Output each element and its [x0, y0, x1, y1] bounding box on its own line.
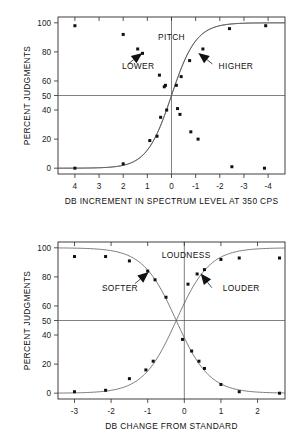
annotation-label-right: LOUDER: [223, 283, 260, 293]
caption-strip: [0, 440, 301, 448]
x-tick-label: 0: [169, 182, 174, 191]
figure-container: 0204050608010043210-1-2-3-4DB INCREMENT …: [0, 0, 301, 448]
data-point-higher: [159, 116, 162, 119]
x-axis-title: DB INCREMENT IN SPECTRUM LEVEL AT 350 CP…: [65, 196, 279, 206]
data-point-higher: [263, 167, 266, 170]
data-point-lower: [158, 74, 161, 77]
y-tick-label: 80: [42, 273, 52, 282]
x-tick-label: 1: [219, 407, 224, 416]
data-point-softer: [278, 392, 281, 395]
arrow-left: [137, 272, 148, 283]
x-tick-label: 1: [145, 182, 150, 191]
data-point-softer: [73, 255, 76, 258]
data-point-lower: [175, 84, 178, 87]
loudness-chart-svg: 02040506080100-3-2-1012DB CHANGE FROM ST…: [0, 227, 301, 440]
annotation-label-left: LOWER: [122, 61, 154, 71]
data-point-higher: [73, 167, 76, 170]
pitch-chart-svg: 0204050608010043210-1-2-3-4DB INCREMENT …: [0, 2, 301, 215]
y-tick-label: 20: [42, 360, 52, 369]
x-tick-label: -3: [240, 182, 248, 191]
x-tick-label: 0: [182, 407, 187, 416]
data-point-louder: [196, 272, 199, 275]
data-point-softer: [238, 390, 241, 393]
y-tick-label: 60: [42, 77, 52, 86]
data-point-softer: [154, 278, 157, 281]
x-tick-label: -1: [192, 182, 200, 191]
data-point-louder: [128, 377, 131, 380]
x-tick-label: -2: [216, 182, 224, 191]
chart-panel-pitch: 0204050608010043210-1-2-3-4DB INCREMENT …: [0, 2, 301, 215]
x-axis-title: DB CHANGE FROM STANDARD: [105, 421, 238, 431]
y-tick-label: 40: [42, 331, 52, 340]
y-tick-label: 100: [37, 19, 51, 28]
data-point-softer: [165, 296, 168, 299]
y-tick-label: 50: [42, 317, 52, 326]
data-point-higher: [178, 113, 181, 116]
arrow-right: [198, 53, 210, 63]
data-point-lower: [163, 85, 166, 88]
data-point-louder: [152, 360, 155, 363]
y-tick-label: 60: [42, 302, 52, 311]
arrow-right-tail: [207, 60, 213, 64]
data-point-lower: [180, 75, 183, 78]
data-point-higher: [156, 135, 159, 138]
data-point-higher: [189, 130, 192, 133]
data-point-higher: [122, 162, 125, 165]
data-point-louder: [144, 368, 147, 371]
data-point-louder: [186, 283, 189, 286]
x-tick-label: -2: [107, 407, 115, 416]
data-point-higher: [148, 139, 151, 142]
data-point-louder: [203, 268, 206, 271]
data-point-louder: [73, 390, 76, 393]
data-point-louder: [238, 256, 241, 259]
data-point-softer: [219, 383, 222, 386]
y-axis-title: PERCENT JUDGMENTS: [22, 46, 32, 146]
data-point-louder: [219, 258, 222, 261]
data-point-lower: [264, 24, 267, 27]
data-point-louder: [104, 389, 107, 392]
data-point-softer: [203, 367, 206, 370]
x-tick-label: 4: [73, 182, 78, 191]
data-point-lower: [228, 27, 231, 30]
data-point-higher: [230, 165, 233, 168]
data-point-softer: [197, 360, 200, 363]
annotation-label-right: HIGHER: [219, 61, 254, 71]
y-tick-label: 40: [42, 106, 52, 115]
data-point-softer: [190, 350, 193, 353]
arrow-right-tail: [207, 282, 211, 288]
data-point-softer: [128, 259, 131, 262]
data-point-softer: [104, 255, 107, 258]
x-tick-label: -4: [264, 182, 272, 191]
data-point-lower: [73, 24, 76, 27]
chart-title-label: PITCH: [158, 32, 185, 42]
y-tick-label: 100: [37, 244, 51, 253]
data-point-lower: [122, 33, 125, 36]
chart-panel-loudness: 02040506080100-3-2-1012DB CHANGE FROM ST…: [0, 227, 301, 440]
data-point-louder: [278, 256, 281, 259]
y-tick-label: 0: [46, 389, 51, 398]
y-tick-label: 0: [46, 164, 51, 173]
y-tick-label: 80: [42, 48, 52, 57]
data-point-higher: [176, 107, 179, 110]
x-tick-label: 2: [255, 407, 260, 416]
x-tick-label: -3: [71, 407, 79, 416]
y-tick-label: 20: [42, 135, 52, 144]
x-tick-label: -1: [144, 407, 152, 416]
data-point-lower: [136, 47, 139, 50]
arrow-right: [201, 274, 211, 286]
data-point-lower: [188, 59, 191, 62]
data-point-higher: [197, 138, 200, 141]
data-point-higher: [165, 109, 168, 112]
data-point-softer: [146, 270, 149, 273]
chart-title-label: LOUDNESS: [162, 250, 211, 260]
x-tick-label: 2: [121, 182, 126, 191]
x-tick-label: 3: [97, 182, 102, 191]
data-point-softer: [181, 338, 184, 341]
y-tick-label: 50: [42, 92, 52, 101]
annotation-label-left: SOFTER: [102, 283, 138, 293]
y-axis-title: PERCENT JUDGMENTS: [22, 271, 32, 371]
data-point-lower: [201, 47, 204, 50]
